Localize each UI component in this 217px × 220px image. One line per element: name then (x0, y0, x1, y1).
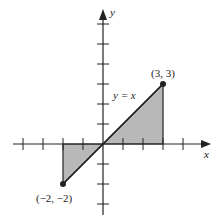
endpoint-lower-dot (60, 181, 66, 187)
endpoint-label-upper: (3, 3) (151, 67, 175, 80)
x-axis-label: x (203, 148, 209, 160)
graph: x y y = x (3, 3) (−2, −2) (0, 0, 217, 220)
function-label: y = x (112, 89, 136, 101)
endpoint-upper-dot (160, 81, 166, 87)
y-axis-arrow-icon (99, 9, 107, 20)
y-axis-label: y (109, 6, 115, 18)
endpoint-label-lower: (−2, −2) (36, 192, 73, 205)
x-axis-arrow-icon (201, 140, 211, 148)
